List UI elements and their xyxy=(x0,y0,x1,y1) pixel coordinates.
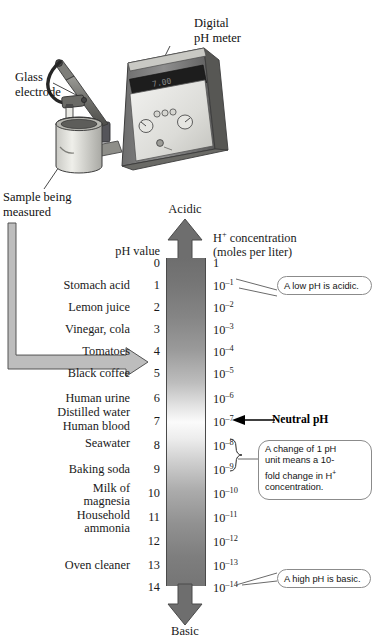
substance-seawater: Seawater xyxy=(85,436,130,451)
ph-number-4: 4 xyxy=(136,344,160,359)
concentration-1: 10–1 xyxy=(213,278,234,294)
meter-port xyxy=(157,140,164,147)
callout-high-ph-is-basic: A high pH is basic. xyxy=(277,569,371,588)
substance-stomach-acid: Stomach acid xyxy=(63,278,130,293)
substance-distilled-water: Distilled water xyxy=(57,405,130,420)
sample-label-line1: Sample being xyxy=(3,190,71,205)
ph-number-3: 3 xyxy=(136,322,160,337)
substance-milk-of-magnesia-line2: magnesia xyxy=(84,494,130,509)
concentration-5: 10–5 xyxy=(213,366,234,382)
callout-change-line1: A change of 1 pH xyxy=(265,444,365,455)
meter-body: 7.00 xyxy=(122,48,228,170)
neutral-ph-arrow xyxy=(231,412,276,428)
ph-number-6: 6 xyxy=(136,391,160,406)
concentration-12: 10–12 xyxy=(213,534,238,550)
concentration-11: 10–11 xyxy=(213,510,238,526)
ph-number-0: 0 xyxy=(136,256,160,271)
acidic-arrow-up xyxy=(166,218,204,260)
ph-number-8: 8 xyxy=(136,438,160,453)
ph-number-2: 2 xyxy=(136,300,160,315)
neutral-ph-label: Neutral pH xyxy=(272,413,328,426)
basic-label: Basic xyxy=(166,624,204,639)
ph-meter-drawing: 7.00 xyxy=(0,0,376,200)
concentration-header-line2: (moles per liter) xyxy=(213,246,297,260)
substance-oven-cleaner: Oven cleaner xyxy=(65,558,130,573)
callout-leader-low-ph xyxy=(236,276,282,302)
digital-label-line1: Digital xyxy=(194,16,241,31)
brace-8-9 xyxy=(228,437,244,473)
concentration-6: 10–6 xyxy=(213,391,234,407)
electrode-label-line1: Glass xyxy=(15,70,61,85)
concentration-3: 10–3 xyxy=(213,322,234,338)
ph-number-13: 13 xyxy=(136,558,160,573)
digital-ph-meter-label: Digital pH meter xyxy=(194,16,241,45)
substance-baking-soda: Baking soda xyxy=(69,462,130,477)
ph-number-9: 9 xyxy=(136,462,160,477)
substance-household-ammonia-line2: ammonia xyxy=(84,521,130,536)
ph-number-7: 7 xyxy=(136,414,160,429)
meter-button-1 xyxy=(154,111,160,117)
callout-change-line2: unit means a 10- xyxy=(265,455,365,466)
acidic-label: Acidic xyxy=(166,202,204,217)
concentration-0: 1 xyxy=(213,256,219,271)
meter-button-2 xyxy=(162,110,168,116)
substance-tomatoes: Tomatoes xyxy=(82,344,130,359)
concentration-4: 10–4 xyxy=(213,344,234,360)
concentration-header: H+ concentration (moles per liter) xyxy=(213,228,297,259)
basic-arrow-down xyxy=(166,584,204,626)
ph-gradient-bar xyxy=(166,258,206,586)
ph-number-12: 12 xyxy=(136,534,160,549)
ph-number-5: 5 xyxy=(136,366,160,381)
concentration-14: 10–14 xyxy=(213,580,238,596)
substance-lemon-juice: Lemon juice xyxy=(68,300,130,315)
substance-vinegar-cola: Vinegar, cola xyxy=(65,322,130,337)
ph-number-14: 14 xyxy=(136,580,160,595)
substance-human-urine: Human urine xyxy=(65,391,130,406)
ph-number-10: 10 xyxy=(136,486,160,501)
concentration-13: 10–13 xyxy=(213,558,238,574)
meter-button-3 xyxy=(170,109,176,115)
ph-number-11: 11 xyxy=(136,510,160,525)
electrode-label-line2: electrode xyxy=(15,85,61,100)
concentration-2: 10–2 xyxy=(213,300,234,316)
digital-label-line2: pH meter xyxy=(194,31,241,46)
substance-black-coffee: Black coffee xyxy=(68,366,130,381)
callout-change-line3: fold change in H+ xyxy=(265,467,365,483)
sample-beaker xyxy=(56,117,102,173)
callout-leader-high-ph xyxy=(236,569,282,591)
callout-change-line4: concentration. xyxy=(265,482,365,493)
concentration-header-line1: H+ concentration xyxy=(213,228,297,246)
ph-number-1: 1 xyxy=(136,278,160,293)
callout-ten-fold-change: A change of 1 pH unit means a 10- fold c… xyxy=(258,440,372,500)
callout-low-ph-is-acidic: A low pH is acidic. xyxy=(277,276,372,295)
concentration-10: 10–10 xyxy=(213,486,238,502)
glass-electrode-label: Glass electrode xyxy=(15,70,61,99)
substance-human-blood: Human blood xyxy=(63,419,130,434)
ph-meter-illustration: 7.00 xyxy=(0,0,376,200)
